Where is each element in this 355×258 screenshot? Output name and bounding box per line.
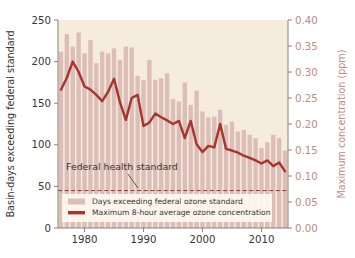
ozone-chart-figure: Federal health standard Days exceeding f… [0,0,355,258]
legend-swatch-line [68,211,85,214]
right-tick-label-0.30: 0.30 [295,67,318,78]
left-tick-label-0: 0 [45,223,51,234]
left-tick-label-250: 250 [32,15,51,26]
annotation-label: Federal health standard [66,161,178,172]
chart-legend: Days exceeding federal ozone standard Ma… [62,194,272,222]
legend-swatch-bar [68,199,85,205]
left-tick-label-50: 50 [38,181,51,192]
bar-2013 [277,138,281,228]
right-axis-title: Maximum concentration (ppm) [336,50,347,199]
left-tick-label-100: 100 [32,139,51,150]
x-tick-label-2010: 2010 [248,234,274,245]
left-tick-label-200: 200 [32,56,51,67]
right-tick-label-0.10: 0.10 [295,171,318,182]
chart-canvas: Federal health standard Days exceeding f… [0,0,355,258]
right-tick-label-0.05: 0.05 [295,197,318,208]
right-axis-ticks: 0.000.050.100.150.200.250.300.350.40 [288,15,318,234]
right-tick-label-0.20: 0.20 [295,119,318,130]
bar-2014 [283,151,287,228]
right-tick-label-0.35: 0.35 [295,41,318,52]
left-tick-label-150: 150 [32,98,51,109]
right-tick-label-0.15: 0.15 [295,145,318,156]
right-tick-label-0.40: 0.40 [295,15,318,26]
legend-label-line: Maximum 8-hour average ozone concentrati… [92,208,271,217]
x-tick-label-2000: 2000 [190,234,216,245]
right-tick-label-0.00: 0.00 [295,223,318,234]
left-axis-ticks: 050100150200250 [32,15,58,234]
x-tick-label-1990: 1990 [131,234,157,245]
left-axis-title: Basin-days exceeding federal standard [5,30,16,217]
right-tick-label-0.25: 0.25 [295,93,318,104]
x-tick-label-1980: 1980 [72,234,98,245]
legend-label-bar: Days exceeding federal ozone standard [92,197,243,206]
x-axis-ticks: 1980199020002010 [72,228,275,245]
